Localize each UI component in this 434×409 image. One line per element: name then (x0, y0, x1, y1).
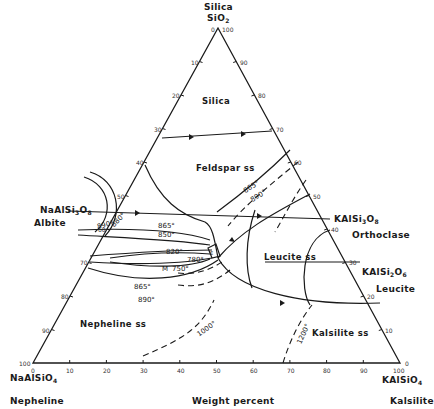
isotherm-850 (78, 235, 210, 245)
isotherm-label-850: 850° (158, 231, 175, 239)
leucite-name: Leucite (376, 284, 415, 294)
formula-main: NaAlSiO (10, 373, 53, 383)
vertex-top-formula: SiO2 (207, 13, 230, 24)
formula-sub: 2 (225, 17, 229, 24)
tick-right-90: 90 (240, 59, 248, 66)
isotherm-dashed-right (275, 180, 306, 232)
tick-left-50: 50 (117, 193, 125, 200)
tick-bottom-30: 30 (140, 367, 148, 374)
tick-right-70: 70 (276, 126, 284, 133)
tick-right-80: 80 (258, 92, 266, 99)
tick-left-40: 40 (136, 159, 144, 166)
field-kalsilite: Kalsilite ss (312, 328, 369, 338)
tick-left-80: 80 (61, 293, 69, 300)
tick-bottom-100: 100 (393, 367, 404, 374)
tick-left-90: 90 (42, 327, 50, 334)
field-silica: Silica (202, 96, 230, 106)
leucite-formula: KAlSi2O6 (362, 267, 407, 278)
tick-bottom-0: 0 (31, 367, 35, 374)
leucite-curve-2 (247, 210, 255, 288)
formula-sub: 4 (418, 379, 422, 386)
tick-right-50: 50 (313, 193, 321, 200)
formula-main: KAlSiO (382, 375, 418, 385)
tick-right-20: 20 (367, 293, 375, 300)
formula-part: KAlSi (334, 214, 362, 224)
tick-bottom-70: 70 (287, 367, 295, 374)
feldspar-leucite-boundary (218, 194, 310, 258)
eutectic-mark: E (210, 250, 213, 256)
tick-left-0: 0 (211, 26, 215, 33)
left-ticks (52, 62, 203, 331)
vertex-left-formula: NaAlSiO4 (10, 373, 57, 384)
axis-label: Weight percent (192, 396, 274, 406)
silica-feldspar-boundary (162, 131, 272, 138)
vertex-right-formula: KAlSiO4 (382, 375, 423, 386)
formula-sub: 4 (53, 377, 57, 384)
field-leucite: Leucite ss (264, 252, 316, 262)
vertex-top-name: Silica (204, 2, 233, 12)
field-feldspar: Feldspar ss (196, 163, 255, 173)
tick-bottom-60: 60 (250, 367, 258, 374)
formula-part: O (395, 267, 403, 277)
tick-right-40: 40 (331, 226, 339, 233)
orthoclase-formula: KAlSi3O8 (334, 214, 379, 225)
tick-left-10: 10 (191, 59, 199, 66)
isotherm-label-780: 780° (187, 256, 204, 264)
minimum-point-label: M (162, 265, 168, 273)
tick-right-0: 0 (405, 360, 409, 367)
formula-part: KAlSi (362, 267, 390, 277)
tick-right-10: 10 (385, 327, 393, 334)
albite-name: Albite (34, 218, 66, 228)
tick-right-100: 100 (222, 26, 233, 33)
tick-left-30: 30 (154, 126, 162, 133)
formula-part: O (367, 214, 375, 224)
isotherm-label-890-low: 890° (138, 296, 155, 304)
tick-bottom-20: 20 (103, 367, 111, 374)
field-nepheline: Nepheline ss (80, 319, 146, 329)
tick-bottom-50: 50 (213, 367, 221, 374)
tick-bottom-40: 40 (177, 367, 185, 374)
isotherm-label-750: 750° (172, 265, 189, 273)
orthoclase-name: Orthoclase (352, 230, 410, 240)
formula-sub: 8 (375, 218, 379, 225)
leucite-inner-curve (304, 230, 330, 305)
isotherm-label-865-low: 865° (134, 283, 151, 291)
tick-bottom-80: 80 (323, 367, 331, 374)
tick-left-70: 70 (80, 259, 88, 266)
tick-right-30: 30 (349, 259, 357, 266)
arrow-markers (135, 131, 285, 306)
tick-left-20: 20 (172, 92, 180, 99)
tick-right-60: 60 (294, 159, 302, 166)
albite-formula: NaAlSi3O8 (40, 205, 92, 216)
tick-left-100: 100 (19, 360, 30, 367)
isotherm-label-865-mid: 865° (158, 222, 175, 230)
formula-part: NaAlSi (40, 205, 75, 215)
triangle-outline (33, 28, 400, 363)
tick-bottom-90: 90 (360, 367, 368, 374)
vertex-left-name: Nepheline (10, 396, 64, 406)
formula-sub: 6 (403, 271, 407, 278)
formula-sub: 8 (87, 209, 91, 216)
formula-main: SiO (207, 13, 225, 23)
vertex-right-name: Kalsilite (390, 396, 434, 406)
isotherm-label-820: 820° (166, 248, 183, 256)
tick-bottom-10: 10 (66, 367, 74, 374)
